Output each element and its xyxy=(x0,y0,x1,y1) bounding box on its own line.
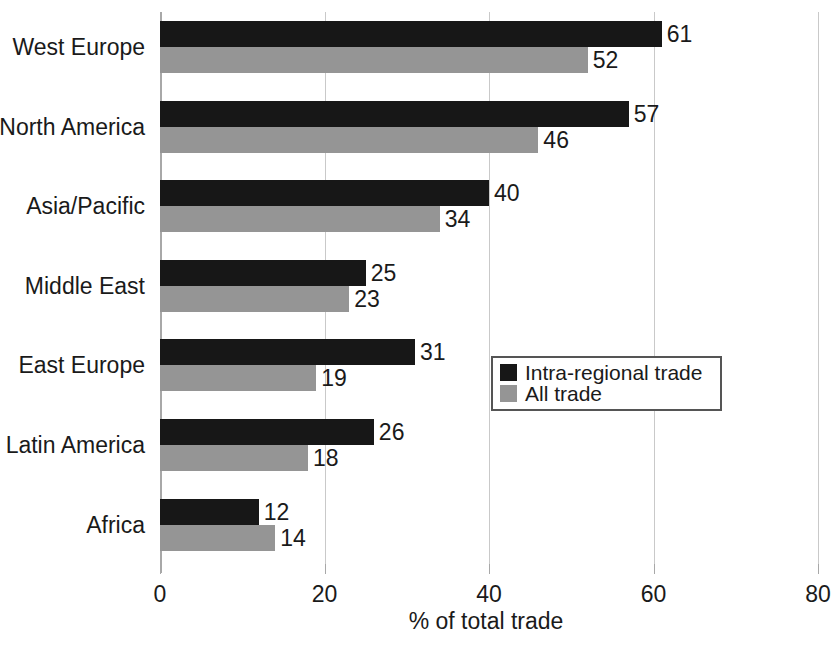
x-tick-label-40: 40 xyxy=(476,583,502,606)
bar-row: 40 xyxy=(160,180,818,206)
x-axis-title-text: % of total trade xyxy=(409,610,564,633)
y-axis-label-africa: Africa xyxy=(0,513,145,536)
bar-value-label: 12 xyxy=(259,500,290,523)
bar-row: 12 xyxy=(160,499,818,525)
x-tick-label-20: 20 xyxy=(312,583,338,606)
bar-row: 34 xyxy=(160,206,818,232)
bar[interactable] xyxy=(160,525,275,551)
x-tick-label-60: 60 xyxy=(641,583,667,606)
bar[interactable] xyxy=(160,365,316,391)
legend-swatch-icon-intra-regional-trade xyxy=(500,364,517,381)
gridline-80 xyxy=(818,12,819,573)
legend-item-all-trade[interactable]: All trade xyxy=(500,383,713,404)
bar-value-label: 46 xyxy=(538,128,569,151)
bar-group: 2618 xyxy=(160,419,818,471)
bar[interactable] xyxy=(160,445,308,471)
bar-value-label: 23 xyxy=(349,287,380,310)
bar-row: 46 xyxy=(160,127,818,153)
bar-row: 18 xyxy=(160,445,818,471)
bar[interactable] xyxy=(160,206,440,232)
bar[interactable] xyxy=(160,260,366,286)
legend-swatch-icon-all-trade xyxy=(500,385,517,402)
x-tick-label-80: 80 xyxy=(805,583,831,606)
bar-value-label: 57 xyxy=(629,102,660,125)
x-tick-mark-0 xyxy=(160,564,161,574)
y-axis-label-east-europe: East Europe xyxy=(0,354,145,377)
bar-group: 6152 xyxy=(160,21,818,73)
legend: Intra-regional trade All trade xyxy=(491,356,722,411)
bar[interactable] xyxy=(160,21,662,47)
bar-row: 52 xyxy=(160,47,818,73)
bar-group: 4034 xyxy=(160,180,818,232)
bar-row: 23 xyxy=(160,286,818,312)
bar-value-label: 19 xyxy=(316,367,347,390)
bar-value-label: 34 xyxy=(440,208,471,231)
y-axis-label-west-europe: West Europe xyxy=(0,36,145,59)
x-tick-mark-60 xyxy=(654,564,655,574)
bar-row: 14 xyxy=(160,525,818,551)
bar-value-label: 31 xyxy=(415,341,446,364)
x-axis-title: % of total trade xyxy=(0,610,832,633)
bar-group: 1214 xyxy=(160,499,818,551)
y-axis-label-north-america: North America xyxy=(0,115,145,138)
bar-value-label: 18 xyxy=(308,447,339,470)
bar-row: 57 xyxy=(160,101,818,127)
bar[interactable] xyxy=(160,286,349,312)
bar-value-label: 26 xyxy=(374,421,405,444)
y-axis-label-latin-america: Latin America xyxy=(0,434,145,457)
y-axis-label-asia-pacific: Asia/Pacific xyxy=(0,195,145,218)
bar[interactable] xyxy=(160,339,415,365)
bar-value-label: 14 xyxy=(275,526,306,549)
bar-group: 2523 xyxy=(160,260,818,312)
bar[interactable] xyxy=(160,180,489,206)
bar[interactable] xyxy=(160,47,588,73)
x-tick-mark-80 xyxy=(818,564,819,574)
bar-value-label: 25 xyxy=(366,261,397,284)
bar[interactable] xyxy=(160,127,538,153)
bar[interactable] xyxy=(160,499,259,525)
bar-row: 61 xyxy=(160,21,818,47)
bar-row: 25 xyxy=(160,260,818,286)
bar[interactable] xyxy=(160,101,629,127)
bar-value-label: 52 xyxy=(588,49,619,72)
plot-area: 6152574640342523311926181214 xyxy=(160,12,818,573)
bar-value-label: 40 xyxy=(489,182,520,205)
x-tick-label-0: 0 xyxy=(154,583,167,606)
legend-label-all-trade: All trade xyxy=(525,383,602,404)
bar-value-label: 61 xyxy=(662,23,693,46)
x-tick-mark-40 xyxy=(489,564,490,574)
x-tick-mark-20 xyxy=(325,564,326,574)
x-axis: 020406080 xyxy=(160,573,818,574)
y-axis-label-middle-east: Middle East xyxy=(0,274,145,297)
bar-chart: 6152574640342523311926181214 West Europe… xyxy=(0,0,832,648)
bar-row: 26 xyxy=(160,419,818,445)
legend-label-intra-regional-trade: Intra-regional trade xyxy=(525,362,702,383)
bar-group: 5746 xyxy=(160,101,818,153)
legend-item-intra-regional-trade[interactable]: Intra-regional trade xyxy=(500,362,713,383)
bar[interactable] xyxy=(160,419,374,445)
